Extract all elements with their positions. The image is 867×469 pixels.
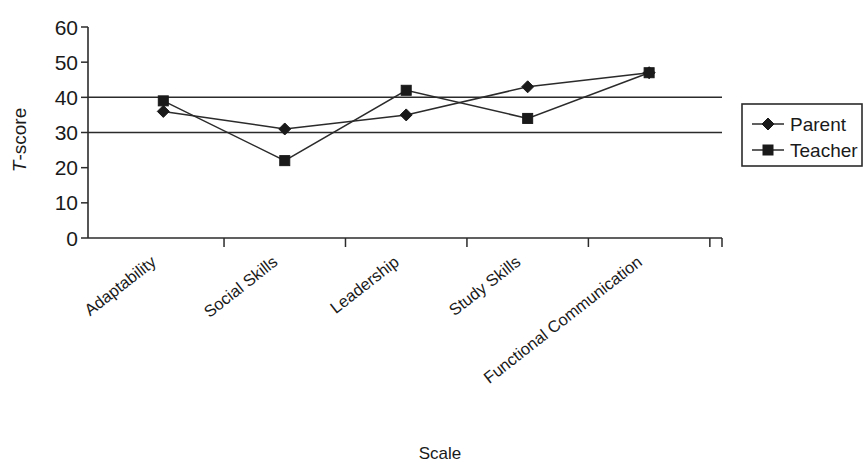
y-tick-label: 10 [55,191,78,214]
chart-container: 0102030405060 AdaptabilitySocial SkillsL… [0,0,867,469]
chart-legend: ParentTeacher [742,104,862,166]
line-chart: 0102030405060 AdaptabilitySocial SkillsL… [0,0,867,469]
legend-label-parent: Parent [790,114,847,135]
data-point-teacher-2 [401,85,411,95]
y-tick-label: 60 [55,16,78,39]
y-axis-title: T-score [9,108,30,172]
y-tick-label: 50 [55,51,78,74]
y-tick-label: 40 [55,86,78,109]
chart-background [0,0,867,469]
legend-label-teacher: Teacher [790,140,858,161]
legend-marker-square-icon [763,145,773,155]
x-axis-title: Scale [419,444,462,463]
svg-text:T-score: T-score [9,108,30,172]
y-tick-label: 20 [55,156,78,179]
data-point-teacher-4 [644,68,654,78]
data-point-teacher-1 [280,156,290,166]
data-point-teacher-0 [158,96,168,106]
y-tick-label: 30 [55,121,78,144]
data-point-teacher-3 [523,113,533,123]
y-tick-label: 0 [66,227,78,250]
